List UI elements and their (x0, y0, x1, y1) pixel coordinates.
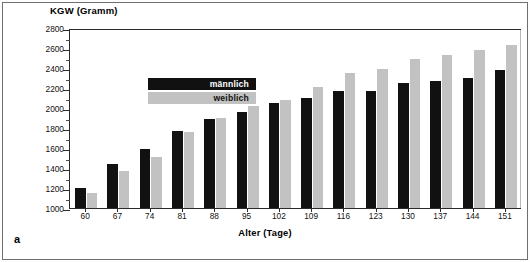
bar-weiblich-60 (87, 193, 98, 209)
y-tick-label-1800: 1800 (46, 124, 64, 134)
bar-mnnlich-67 (107, 164, 118, 208)
y-tick-2800 (63, 30, 70, 31)
x-tick-label-109: 109 (304, 211, 318, 221)
legend-label-maennlich: männlich (148, 79, 256, 89)
y-tick-minor-2100 (66, 100, 70, 101)
y-tick-label-2800: 2800 (46, 24, 64, 34)
y-tick-minor-1300 (66, 180, 70, 181)
bar-weiblich-137 (442, 55, 453, 208)
x-tick-label-123: 123 (369, 211, 383, 221)
y-tick-label-1000: 1000 (46, 204, 64, 214)
y-tick-2400 (63, 70, 70, 71)
bar-mnnlich-130 (398, 83, 409, 209)
plot-right-edge (520, 30, 521, 208)
x-axis-title: Alter (Tage) (0, 228, 530, 238)
y-tick-1800 (63, 130, 70, 131)
bars-container (70, 30, 521, 208)
x-tick-label-95: 95 (242, 211, 251, 221)
x-tick-label-81: 81 (177, 211, 186, 221)
bar-mnnlich-95 (237, 112, 248, 209)
bar-weiblich-130 (410, 59, 421, 208)
y-tick-label-1200: 1200 (46, 184, 64, 194)
x-axis-labels: 606774818895102109116123130137144151 (69, 211, 521, 227)
bar-mnnlich-144 (463, 78, 474, 209)
x-tick-label-102: 102 (272, 211, 286, 221)
bar-mnnlich-88 (204, 119, 215, 208)
bar-mnnlich-116 (333, 91, 344, 209)
bar-weiblich-88 (216, 118, 227, 208)
x-tick-label-74: 74 (145, 211, 154, 221)
legend-item-weiblich: weiblich (148, 92, 256, 104)
bar-weiblich-151 (506, 45, 517, 209)
x-tick-label-67: 67 (113, 211, 122, 221)
bar-weiblich-144 (474, 50, 485, 208)
figure-panel-a: KGW (Gramm) 1000120014001600180020002200… (0, 0, 530, 262)
bar-weiblich-81 (184, 132, 195, 208)
bar-mnnlich-60 (75, 188, 86, 209)
y-tick-minor-1700 (66, 140, 70, 141)
bar-mnnlich-81 (172, 131, 183, 208)
legend: männlich weiblich (148, 78, 256, 106)
y-tick-2600 (63, 50, 70, 51)
y-tick-2000 (63, 110, 70, 111)
y-tick-1200 (63, 190, 70, 191)
bar-weiblich-67 (119, 171, 130, 209)
x-tick-label-88: 88 (210, 211, 219, 221)
y-tick-label-2200: 2200 (46, 84, 64, 94)
y-tick-2200 (63, 90, 70, 91)
bar-mnnlich-123 (366, 91, 377, 209)
y-tick-label-1600: 1600 (46, 144, 64, 154)
x-tick-label-116: 116 (337, 211, 350, 221)
plot-area: männlich weiblich (69, 29, 521, 209)
y-tick-minor-1900 (66, 120, 70, 121)
y-axis-labels: 1000120014001600180020002200240026002800 (0, 29, 64, 209)
y-axis-title: KGW (Gramm) (50, 5, 118, 16)
bar-mnnlich-74 (140, 149, 151, 208)
bar-mnnlich-137 (430, 81, 441, 209)
y-tick-1400 (63, 170, 70, 171)
bar-weiblich-95 (248, 106, 259, 208)
x-tick-label-60: 60 (81, 211, 90, 221)
y-tick-minor-2500 (66, 60, 70, 61)
y-tick-label-1400: 1400 (46, 164, 64, 174)
bar-mnnlich-109 (301, 98, 312, 208)
legend-label-weiblich: weiblich (148, 93, 256, 103)
bar-weiblich-74 (151, 157, 162, 208)
y-tick-minor-2300 (66, 80, 70, 81)
bar-weiblich-102 (280, 100, 291, 209)
bar-mnnlich-102 (269, 103, 280, 209)
panel-letter: a (14, 233, 20, 245)
x-tick-label-151: 151 (498, 211, 512, 221)
y-tick-label-2600: 2600 (46, 44, 64, 54)
x-tick-label-130: 130 (401, 211, 415, 221)
bar-weiblich-116 (345, 73, 356, 208)
y-tick-label-2400: 2400 (46, 64, 64, 74)
x-tick-label-137: 137 (433, 211, 447, 221)
y-tick-minor-1100 (66, 200, 70, 201)
bar-weiblich-109 (313, 87, 324, 209)
legend-item-maennlich: männlich (148, 78, 256, 90)
x-tick-label-144: 144 (466, 211, 480, 221)
y-tick-1600 (63, 150, 70, 151)
y-tick-label-2000: 2000 (46, 104, 64, 114)
y-tick-minor-2700 (66, 40, 70, 41)
y-tick-minor-1500 (66, 160, 70, 161)
bar-weiblich-123 (377, 69, 388, 209)
bar-mnnlich-151 (495, 70, 506, 209)
